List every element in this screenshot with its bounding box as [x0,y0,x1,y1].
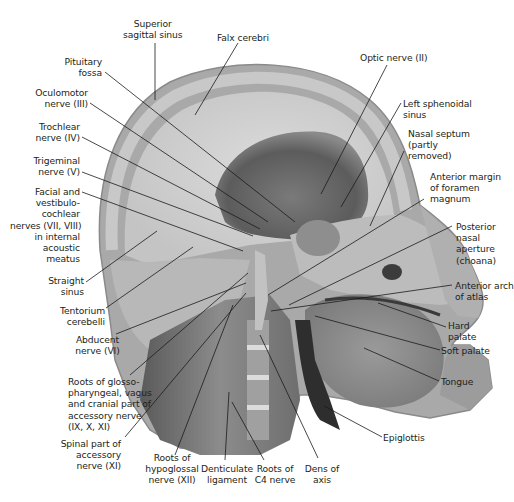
label-posterior-nasal-aperture: Posterior nasal aperture (choana) [456,221,496,266]
label-anterior-margin-foramen-magnum: Anterior margin of foramen magnum [430,171,501,205]
label-roots-hypoglossal-nerve: Roots of hypoglossal nerve (XII) [142,452,202,486]
skull-section [99,65,492,455]
label-falx-cerebri: Falx cerebri [217,32,269,43]
label-pituitary-fossa: Pituitary fossa [62,56,102,78]
label-tentorium-cerebelli: Tentorium cerebelli [40,305,105,327]
label-anterior-arch-atlas: Anterior arch of atlas [455,280,514,302]
label-straight-sinus: Straight sinus [30,275,84,297]
label-abducent-nerve: Abducent nerve (VI) [70,334,125,356]
label-roots-glossopharyngeal-vagus-accessory: Roots of glosso- pharyngeal, vagus and c… [68,376,152,432]
label-spinal-accessory-nerve: Spinal part of accessory nerve (XI) [55,438,121,472]
label-oculomotor-nerve: Oculomotor nerve (III) [30,87,88,109]
label-denticulate-ligament: Denticulate ligament [196,463,258,485]
label-facial-vestibulocochlear-nerves: Facial and vestibulo- cochlear nerves (V… [10,186,80,264]
label-superior-sagittal-sinus: Superior sagittal sinus [123,18,182,40]
label-trochlear-nerve: Trochlear nerve (IV) [30,121,80,143]
label-tongue: Tongue [441,376,473,387]
label-optic-nerve: Optic nerve (II) [360,52,427,63]
label-trigeminal-nerve: Trigeminal nerve (V) [20,155,80,177]
label-hard-palate: Hard palate [448,320,476,342]
label-left-sphenoidal-sinus: Left sphenoidal sinus [403,98,472,120]
label-dens-of-axis: Dens of axis [300,463,344,485]
label-nasal-septum: Nasal septum (partly removed) [408,128,470,162]
label-roots-c4-nerve: Roots of C4 nerve [250,463,300,485]
label-soft-palate: Soft palate [441,345,490,356]
label-epiglottis: Epiglottis [383,432,425,443]
